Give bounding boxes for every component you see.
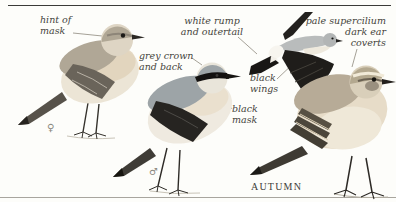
label-black-mask: black mask: [232, 104, 258, 126]
female-bill: [132, 35, 145, 40]
label-grey-crown-back: grey crown and back: [139, 51, 193, 73]
autumn-legs: [334, 156, 384, 199]
field-guide-plate: hint of mask white rump and outertail gr…: [0, 0, 396, 202]
autumn-eye: [372, 77, 376, 81]
female-symbol: ♀: [47, 122, 54, 133]
ground: [67, 136, 115, 139]
label-white-rump-outertail: white rump and outertail: [178, 16, 246, 38]
male-bill: [226, 74, 241, 80]
label-pale-supercilium-ear-coverts: pale supercilium dark ear coverts: [306, 16, 386, 48]
autumn-ear-coverts: [365, 81, 379, 91]
male-eye: [216, 74, 219, 77]
male-bird-illustration: [110, 60, 260, 198]
label-hint-of-mask: hint of mask: [40, 15, 71, 37]
female-legs: [74, 103, 106, 139]
autumn-bill: [382, 79, 396, 85]
season-caption: AUTUMN: [251, 181, 302, 192]
male-symbol: ♂: [149, 166, 158, 177]
female-eye: [121, 33, 125, 37]
label-black-wings: black wings: [250, 73, 278, 95]
